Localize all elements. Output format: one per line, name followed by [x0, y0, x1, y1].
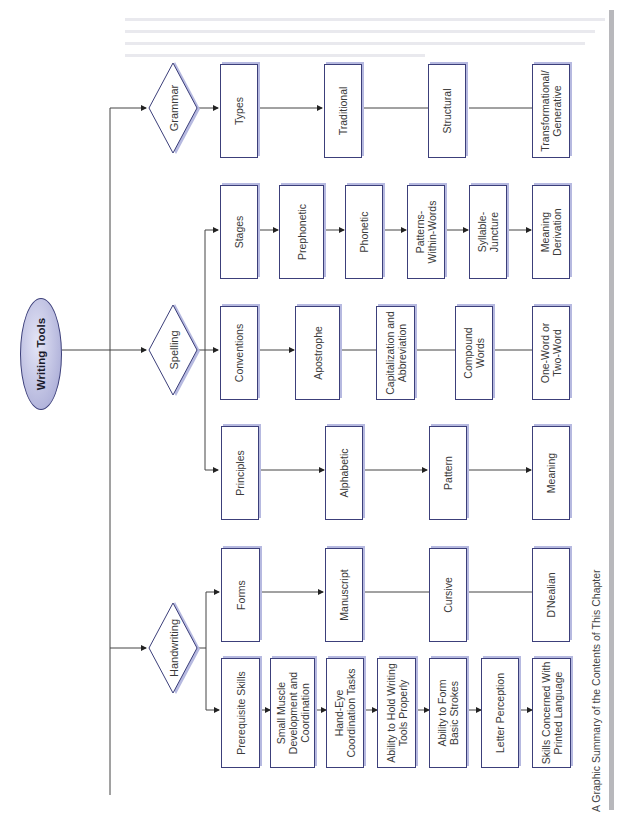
- node-meaning-derivation: Meaning Derivation: [532, 185, 570, 279]
- node-cursive: Cursive: [429, 548, 467, 642]
- grammar-diamond: Grammar: [148, 60, 200, 156]
- node-principles: Principles: [221, 426, 259, 520]
- node-hand-eye-coordination: Hand-Eye Coordination Tasks: [326, 658, 364, 768]
- node-capitalization-abbreviation: Capitalization and Abbreviation: [376, 306, 415, 400]
- node-meaning: Meaning: [532, 426, 570, 520]
- node-structural: Structural: [428, 64, 466, 158]
- node-compound-words: Compound Words: [455, 306, 493, 400]
- node-patterns-within-words: Patterns- Within-Words: [407, 185, 445, 279]
- node-prerequisite-skills: Prerequisite Skills: [221, 658, 260, 768]
- node-conventions: Conventions: [220, 306, 258, 400]
- node-prephonetic: Prephonetic: [279, 185, 324, 279]
- node-phonetic: Phonetic: [345, 185, 383, 279]
- node-one-word-two-word: One-Word or Two-Word: [532, 306, 570, 400]
- node-small-muscle-development: Small Muscle Development and Coordinatio…: [270, 658, 315, 768]
- node-transformational-generative: Transformational/ Generative: [532, 64, 570, 158]
- node-forms: Forms: [221, 548, 260, 642]
- node-stages: Stages: [220, 185, 258, 279]
- node-form-basic-strokes: Ability to Form Basic Strokes: [429, 658, 467, 768]
- node-hold-writing-tools: Ability to Hold Writing Tools Properly: [377, 658, 416, 768]
- node-traditional: Traditional: [324, 64, 362, 158]
- handwriting-diamond: Handwriting: [148, 600, 200, 696]
- spelling-diamond: Spelling: [148, 302, 200, 398]
- node-manuscript: Manuscript: [325, 548, 363, 642]
- node-dnealian: D'Nealian: [532, 548, 570, 642]
- node-syllable-juncture: Syllable- Juncture: [469, 185, 507, 279]
- node-pattern: Pattern: [429, 426, 467, 520]
- node-letter-perception: Letter Perception: [481, 658, 519, 768]
- root-label: Writing Tools: [35, 318, 47, 390]
- figure-caption: A Graphic Summary of the Contents of Thi…: [590, 569, 602, 812]
- node-apostrophe: Apostrophe: [295, 306, 340, 400]
- root-node-writing-tools: Writing Tools: [20, 298, 62, 410]
- node-printed-language-skills: Skills Concerned With Printed Language: [532, 658, 571, 768]
- node-types: Types: [220, 64, 258, 158]
- node-alphabetic: Alphabetic: [325, 426, 363, 520]
